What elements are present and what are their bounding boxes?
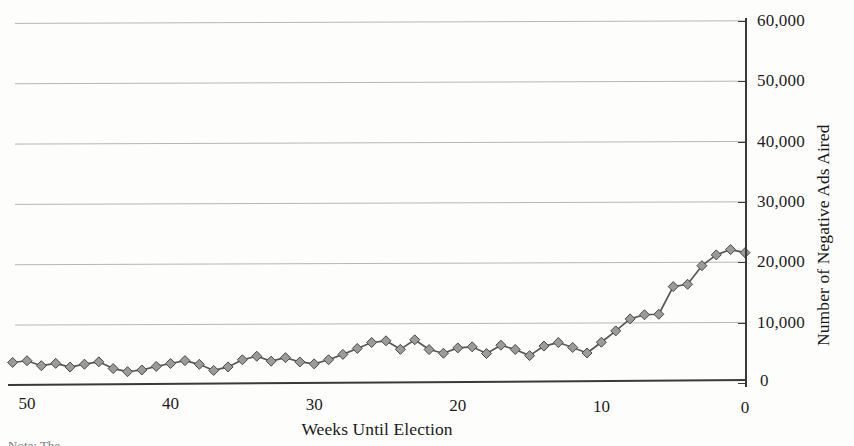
gridline [15,262,746,265]
data-point-marker [424,345,434,355]
data-point-marker [726,245,736,255]
data-point-marker [482,349,492,359]
x-tick-label: 20 [446,397,470,414]
data-point-marker [338,349,348,359]
gridline [15,141,746,144]
data-point-marker [280,353,290,363]
data-point-marker [137,365,147,375]
data-point-marker [266,356,276,366]
data-point-marker [438,348,448,358]
y-tick-label: 10,000 [757,314,805,331]
data-point-marker [568,342,578,352]
y-tick-mark [738,21,746,22]
x-axis-title: Weeks Until Election [0,419,754,439]
y-axis-title-label: Number of Negative Ads Aired [813,26,833,346]
data-point-marker [553,338,563,348]
data-point-marker [8,357,18,367]
data-point-marker [194,359,204,369]
data-point-marker [381,336,391,346]
data-point-marker [94,357,104,367]
data-point-marker [180,356,190,366]
data-point-marker [510,345,520,355]
chart-svg [12,20,746,385]
data-point-marker [525,351,535,361]
y-tick-label: 0 [760,372,769,389]
plot-area [12,20,746,385]
y-tick-mark [738,262,746,263]
data-point-marker [467,342,477,352]
data-point-marker [654,309,664,319]
x-tick-label: 0 [733,399,757,416]
data-point-marker [65,362,75,372]
x-tick-label: 50 [15,395,39,412]
y-axis-title: Number of Negative Ads Aired [795,0,815,36]
data-point-marker [151,361,161,371]
data-point-marker [123,367,133,377]
gridline [15,21,746,24]
data-point-marker [252,351,262,361]
x-tick-label: 40 [159,395,183,412]
y-tick-mark [738,383,746,384]
data-point-marker [639,310,649,320]
data-point-marker [367,338,377,348]
data-point-marker [668,282,678,292]
y-tick-label: 30,000 [757,193,805,210]
y-tick-mark [738,81,746,82]
x-tick-label: 10 [589,398,613,415]
data-point-marker [36,361,46,371]
y-tick-label: 50,000 [757,72,805,89]
series-line [13,250,745,372]
data-point-marker [410,335,420,345]
figure-container: 010,00020,00030,00040,00050,00060,000 Nu… [0,0,854,446]
gridline [15,202,746,205]
y-tick-mark [738,202,746,203]
data-point-marker [309,359,319,369]
data-point-marker [395,344,405,354]
data-point-marker [324,355,334,365]
data-point-marker [223,362,233,372]
gridline [15,322,746,325]
data-point-marker [539,341,549,351]
data-point-marker [453,343,463,353]
data-point-marker [51,358,61,368]
gridline [15,81,746,84]
y-tick-mark [738,323,746,324]
data-point-marker [295,357,305,367]
data-point-marker [22,356,32,366]
data-point-marker [496,340,506,350]
data-point-marker [79,359,89,369]
data-point-marker [237,355,247,365]
y-tick-label: 20,000 [757,253,805,270]
figure-footnote: Note: The [8,438,708,446]
data-point-marker [166,359,176,369]
y-tick-mark [738,142,746,143]
y-tick-label: 40,000 [757,133,805,150]
data-point-marker [352,343,362,353]
x-tick-label: 30 [302,396,326,413]
data-point-marker [108,364,118,374]
data-point-marker [209,365,219,375]
